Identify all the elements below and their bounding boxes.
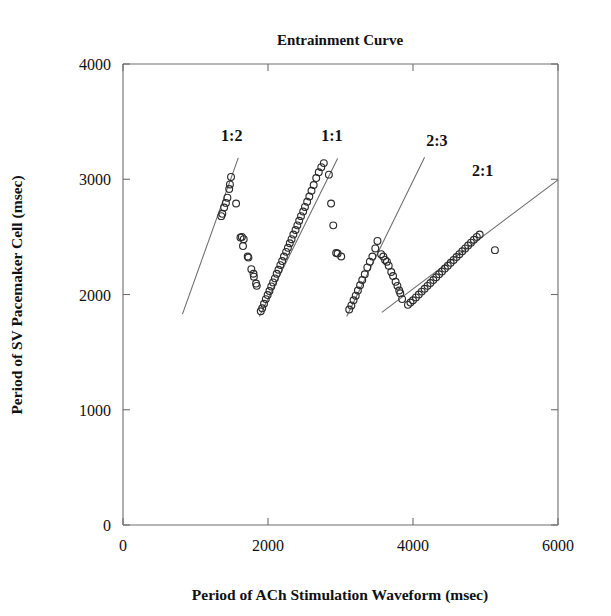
- x-tick-label: 2000: [252, 537, 284, 554]
- data-point: [240, 243, 247, 250]
- data-point: [330, 222, 337, 229]
- series-2-1-outlier: [492, 247, 499, 254]
- ratio-label-1-2: 1:2: [221, 127, 242, 144]
- fit-line-1-1: [259, 159, 337, 317]
- data-point: [328, 200, 335, 207]
- entrainment-curve-figure: Entrainment Curve 0200040006000 01000200…: [0, 0, 611, 616]
- data-point: [392, 278, 399, 285]
- fit-line-2-3: [347, 157, 425, 316]
- series-1-2-descending-branch: [237, 233, 260, 289]
- y-axis-title: Period of SV Pacemaker Cell (msec): [8, 175, 26, 414]
- data-point: [372, 245, 379, 252]
- x-tick-label: 4000: [397, 537, 429, 554]
- series-1-2-entrainment-branch: [218, 174, 240, 220]
- series-2-3-entrainment-branch: [346, 238, 381, 313]
- data-points-group: [218, 160, 498, 315]
- data-point: [270, 279, 277, 286]
- ratio-label-2-1: 2:1: [472, 162, 493, 179]
- data-point: [233, 200, 240, 207]
- data-point: [374, 238, 381, 245]
- y-tick-label: 3000: [79, 171, 111, 188]
- chart-title: Entrainment Curve: [277, 32, 404, 48]
- data-point: [310, 182, 317, 189]
- x-tick-labels: 0200040006000: [119, 537, 574, 554]
- y-tick-labels: 01000200030004000: [79, 56, 111, 534]
- chart-canvas: Entrainment Curve 0200040006000 01000200…: [0, 0, 611, 616]
- data-point: [219, 210, 226, 217]
- y-tick-label: 0: [103, 517, 111, 534]
- y-tick-label: 2000: [79, 287, 111, 304]
- series-1-1-entrainment-branch: [257, 160, 327, 315]
- series-1-1-descending-branch: [326, 171, 345, 260]
- x-tick-label: 0: [119, 537, 127, 554]
- series-2-1-entrainment-branch: [405, 231, 484, 308]
- ratio-label-2-3: 2:3: [426, 132, 447, 149]
- y-tick-label: 4000: [79, 56, 111, 73]
- x-axis-title: Period of ACh Stimulation Waveform (msec…: [192, 586, 488, 604]
- data-point: [492, 247, 499, 254]
- y-tick-label: 1000: [79, 402, 111, 419]
- data-point: [384, 258, 391, 265]
- ratio-label-1-1: 1:1: [321, 127, 342, 144]
- x-tick-label: 6000: [542, 537, 574, 554]
- ratio-annotations-group: 1:21:12:32:1: [221, 127, 493, 179]
- series-2-3-descending-branch: [378, 251, 406, 303]
- data-point: [388, 269, 395, 276]
